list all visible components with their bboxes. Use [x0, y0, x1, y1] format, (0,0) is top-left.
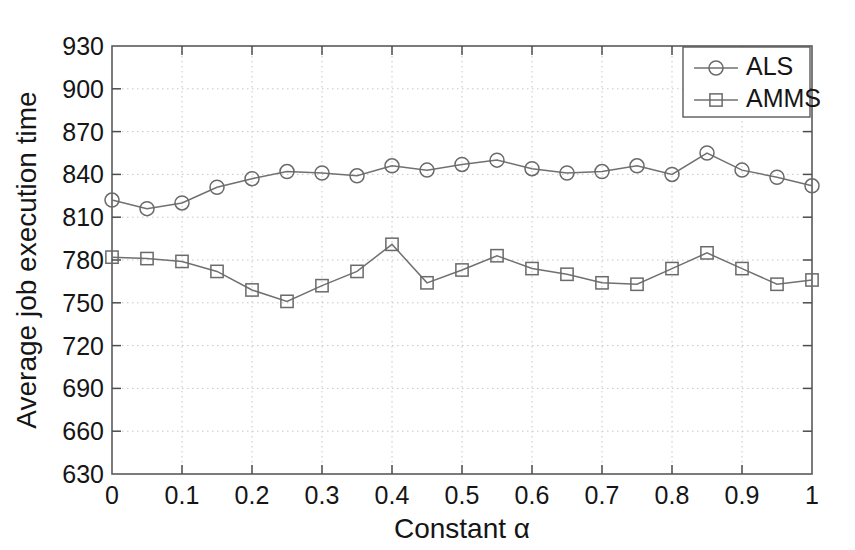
x-tick-label: 0.1: [165, 481, 200, 509]
x-tick-label: 0.4: [375, 481, 410, 509]
x-tick-label: 0.5: [445, 481, 480, 509]
legend-label: ALS: [746, 52, 793, 80]
y-tick-label: 630: [62, 460, 104, 488]
x-tick-labels: 00.10.20.30.40.50.60.70.80.91: [105, 481, 819, 509]
x-tick-label: 0.8: [655, 481, 690, 509]
line-chart: 630660690720750780810840870900930 00.10.…: [0, 0, 855, 550]
x-tick-label: 0: [105, 481, 119, 509]
legend-label: AMMS: [746, 84, 821, 112]
y-tick-label: 720: [62, 332, 104, 360]
y-axis-title: Average job execution time: [11, 91, 42, 428]
y-gridlines: [112, 89, 812, 431]
x-axis-title: Constant α: [394, 513, 530, 544]
y-tick-label: 870: [62, 118, 104, 146]
y-tick-label: 660: [62, 417, 104, 445]
y-tick-label: 780: [62, 246, 104, 274]
y-tick-labels: 630660690720750780810840870900930: [62, 32, 104, 488]
y-tick-label: 930: [62, 32, 104, 60]
series-line: [112, 244, 812, 301]
legend: ALSAMMS: [683, 47, 821, 117]
y-tick-label: 840: [62, 160, 104, 188]
chart-figure: 630660690720750780810840870900930 00.10.…: [0, 0, 855, 550]
x-tick-label: 0.6: [515, 481, 550, 509]
x-tick-label: 0.3: [305, 481, 340, 509]
y-tick-label: 690: [62, 374, 104, 402]
x-tick-label: 0.2: [235, 481, 270, 509]
x-tick-label: 1: [805, 481, 819, 509]
x-tick-label: 0.9: [725, 481, 760, 509]
y-tick-label: 900: [62, 75, 104, 103]
y-tick-label: 750: [62, 289, 104, 317]
y-tick-label: 810: [62, 203, 104, 231]
x-tick-label: 0.7: [585, 481, 620, 509]
